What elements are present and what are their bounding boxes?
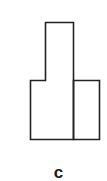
short-right-block: [74, 81, 100, 140]
block-diagram: [0, 0, 107, 181]
figure-label: c: [0, 163, 107, 181]
tall-left-block: [31, 23, 74, 140]
